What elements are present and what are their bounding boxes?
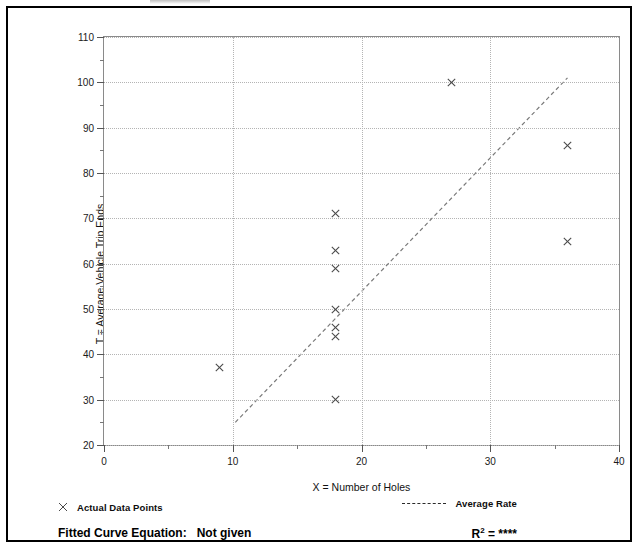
y-axis-tick	[97, 445, 104, 446]
data-point-marker	[215, 363, 224, 372]
y-axis-minor-tick	[100, 286, 104, 287]
data-point-marker	[331, 246, 340, 255]
y-axis-tick	[97, 309, 104, 310]
y-axis-tick-label: 100	[77, 77, 94, 88]
y-axis-tick	[97, 128, 104, 129]
y-axis-tick	[97, 173, 104, 174]
x-axis-minor-tick	[555, 445, 556, 449]
figure-border: T = Average Vehicle Trip Ends X = Number…	[6, 6, 632, 542]
chart-legend: Actual Data Points Average Rate	[58, 498, 600, 514]
x-axis-minor-tick	[297, 445, 298, 449]
x-gridline	[490, 37, 491, 445]
legend-entry-average-rate: Average Rate	[402, 498, 517, 509]
y-axis-tick-label: 20	[83, 440, 94, 451]
x-axis-tick-label: 40	[613, 456, 624, 467]
r-squared-value: ****	[498, 527, 517, 541]
data-point-marker	[331, 395, 340, 404]
x-marker-icon	[58, 498, 68, 516]
y-axis-tick	[97, 82, 104, 83]
y-axis-minor-tick	[100, 332, 104, 333]
data-point-marker	[447, 78, 456, 87]
r-squared-label: R	[471, 527, 480, 541]
y-axis-tick	[97, 37, 104, 38]
x-axis-tick-label: 20	[356, 456, 367, 467]
x-axis-tick-label: 0	[101, 456, 107, 467]
y-axis-tick-label: 70	[83, 213, 94, 224]
data-point-marker	[331, 332, 340, 341]
y-axis-minor-tick	[100, 150, 104, 151]
data-point-marker	[563, 237, 572, 246]
data-point-marker	[331, 264, 340, 273]
y-axis-tick-label: 60	[83, 258, 94, 269]
legend-entry-data-points: Actual Data Points	[58, 498, 163, 516]
y-axis-tick-label: 80	[83, 168, 94, 179]
x-gridline	[362, 37, 363, 445]
fitted-curve-label: Fitted Curve Equation:	[58, 526, 187, 540]
x-axis-tick	[490, 445, 491, 452]
plot-area: 2030405060708090100110010203040	[103, 36, 620, 446]
y-axis-tick-label: 50	[83, 304, 94, 315]
trendline-segment	[235, 78, 567, 423]
y-axis-minor-tick	[100, 422, 104, 423]
fitted-curve-equation: Fitted Curve Equation: Not given	[58, 526, 251, 540]
x-axis-tick	[233, 445, 234, 452]
x-axis-tick-label: 30	[485, 456, 496, 467]
x-axis-minor-tick	[426, 445, 427, 449]
x-axis-tick	[619, 445, 620, 452]
y-axis-tick-label: 110	[78, 32, 94, 43]
r-squared-statistic: R2 = ****	[471, 526, 517, 541]
data-point-marker	[331, 305, 340, 314]
data-point-marker	[331, 323, 340, 332]
x-gridline	[233, 37, 234, 445]
x-axis-title: X = Number of Holes	[103, 481, 620, 493]
y-axis-minor-tick	[100, 196, 104, 197]
x-axis-minor-tick	[168, 445, 169, 449]
y-axis-tick-label: 40	[83, 349, 94, 360]
x-axis-tick	[362, 445, 363, 452]
y-axis-tick	[97, 354, 104, 355]
figure-page: T = Average Vehicle Trip Ends X = Number…	[0, 0, 640, 550]
y-axis-minor-tick	[100, 105, 104, 106]
y-axis-minor-tick	[100, 60, 104, 61]
y-axis-tick	[97, 218, 104, 219]
figure-footer: Fitted Curve Equation: Not given R2 = **…	[58, 526, 600, 544]
r-squared-equals: =	[488, 527, 495, 541]
y-axis-minor-tick	[100, 377, 104, 378]
legend-label-data-points: Actual Data Points	[77, 502, 163, 513]
r-squared-exponent: 2	[480, 526, 484, 535]
data-point-marker	[331, 209, 340, 218]
data-point-marker	[563, 141, 572, 150]
y-axis-tick	[97, 400, 104, 401]
y-axis-tick	[97, 264, 104, 265]
y-axis-tick-label: 90	[83, 122, 94, 133]
dashed-line-icon	[402, 503, 446, 504]
legend-label-average-rate: Average Rate	[455, 498, 517, 509]
y-axis-tick-label: 30	[83, 394, 94, 405]
x-axis-tick-label: 10	[227, 456, 238, 467]
fitted-curve-value: Not given	[197, 526, 252, 540]
scan-artifact-mark	[150, 0, 210, 4]
y-axis-minor-tick	[100, 241, 104, 242]
x-axis-tick	[104, 445, 105, 452]
